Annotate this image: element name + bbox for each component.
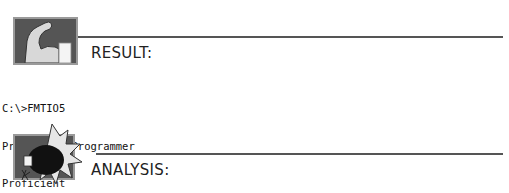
result-heading: RESULT:: [91, 44, 152, 62]
flexed-arm-icon: [15, 19, 76, 63]
analysis-rule: [96, 153, 503, 155]
analysis-heading: ANALYSIS:: [91, 161, 170, 179]
boxing-glove-icon: [10, 122, 90, 192]
result-icon-box: [13, 17, 78, 65]
console-line: C:\>FMTIO5: [2, 102, 135, 115]
result-rule: [78, 36, 503, 38]
